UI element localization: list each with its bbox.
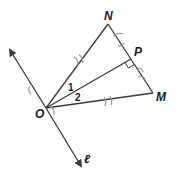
label-angle-2: 2 xyxy=(75,92,81,103)
arc-PM-2 xyxy=(138,76,145,79)
label-l: ℓ xyxy=(84,152,91,166)
arc-OM-2 xyxy=(110,96,112,105)
segment-OM xyxy=(46,93,153,108)
line-l-lower xyxy=(46,108,81,166)
label-N: N xyxy=(104,9,113,23)
arc-ON-1 xyxy=(74,57,78,65)
arc-OM-1 xyxy=(104,97,106,106)
label-P: P xyxy=(134,45,143,59)
line-l-upper xyxy=(10,50,46,108)
label-angle-1: 1 xyxy=(68,82,74,93)
segment-OP xyxy=(46,59,131,108)
arc-l-upper xyxy=(29,86,31,94)
segment-NM xyxy=(108,24,153,93)
label-O: O xyxy=(35,107,45,121)
geometry-diagram: N P M O ℓ 1 2 xyxy=(0,0,178,181)
label-M: M xyxy=(156,90,167,104)
